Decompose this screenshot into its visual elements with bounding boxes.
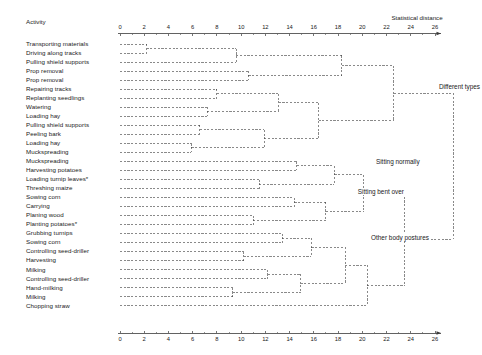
bottom-axis-tick-label-12: 12 <box>262 336 268 342</box>
activity-label-1: Driving along tracks <box>26 49 81 56</box>
activity-label-0: Transporting materials <box>26 40 88 47</box>
activity-label-24: Harvesting <box>26 256 56 263</box>
activity-label-10: Peeling bark <box>26 130 61 137</box>
bottom-axis-tick-label-24: 24 <box>408 336 414 342</box>
activity-label-3: Prop removal <box>26 67 63 74</box>
activity-label-13: Muckspreading <box>26 157 69 164</box>
annotation-sitting-normally: Sitting normally <box>374 158 421 165</box>
activity-label-29: Chopping straw <box>26 302 70 309</box>
bottom-axis-tick-label-10: 10 <box>238 336 244 342</box>
activity-label-16: Threshing maize <box>26 184 73 191</box>
top-axis-tick-label-4: 4 <box>167 24 170 30</box>
activity-label-11: Loading hay <box>26 139 60 146</box>
bottom-axis-tick-label-4: 4 <box>167 336 170 342</box>
activity-column-header: Activity <box>26 18 46 25</box>
bottom-axis-tick-label-6: 6 <box>191 336 194 342</box>
bottom-axis-tick-label-14: 14 <box>286 336 292 342</box>
top-axis-tick-label-18: 18 <box>335 24 341 30</box>
bottom-axis-tick-label-0: 0 <box>118 336 121 342</box>
annotation-sitting-bent-over: Sitting bent over <box>356 188 405 195</box>
bottom-axis-tick-label-18: 18 <box>335 336 341 342</box>
activity-label-28: Milking <box>26 293 46 300</box>
bottom-axis-tick-label-22: 22 <box>383 336 389 342</box>
top-axis-tick-label-0: 0 <box>118 24 121 30</box>
top-axis-arrowhead <box>437 32 442 35</box>
activity-label-4: Prop removal <box>26 76 63 83</box>
activity-label-8: Loading hay <box>26 112 60 119</box>
annotation-other-body-postures: Other body postures <box>370 234 431 241</box>
top-axis-tick-label-26: 26 <box>432 24 438 30</box>
activity-label-5: Repairing tracks <box>26 85 72 92</box>
activity-label-22: Sowing corn <box>26 238 61 245</box>
top-axis-tick-label-12: 12 <box>262 24 268 30</box>
activity-label-7: Watering <box>26 103 51 110</box>
activity-label-12: Muckspreading <box>26 148 69 155</box>
activity-label-19: Planing wood <box>26 211 64 218</box>
bottom-axis-tick-label-8: 8 <box>215 336 218 342</box>
top-axis-tick-label-10: 10 <box>238 24 244 30</box>
bottom-axis-tick-label-26: 26 <box>432 336 438 342</box>
bottom-axis-arrowhead <box>437 331 442 334</box>
activity-label-9: Pulling shield supports <box>26 121 89 128</box>
activity-label-2: Pulling shield supports <box>26 58 89 65</box>
activity-label-20: Planting potatoes* <box>26 220 77 227</box>
top-axis-tick-label-24: 24 <box>408 24 414 30</box>
activity-label-14: Harvesting potatoes <box>26 166 82 173</box>
annotation-different-types: Different types <box>437 83 481 90</box>
axis-title: Statistical distance <box>391 14 442 21</box>
activity-label-6: Replanting seedlings <box>26 94 84 101</box>
activity-label-17: Sowing corn <box>26 193 61 200</box>
activity-label-21: Grubbing turnips <box>26 229 73 236</box>
activity-label-27: Hand-milking <box>26 284 63 291</box>
top-axis-tick-label-8: 8 <box>215 24 218 30</box>
top-axis-tick-label-22: 22 <box>383 24 389 30</box>
bottom-axis-tick-label-16: 16 <box>311 336 317 342</box>
top-axis-tick-label-6: 6 <box>191 24 194 30</box>
top-axis-tick-label-16: 16 <box>311 24 317 30</box>
activity-label-23: Controlling seed-driller <box>26 247 89 254</box>
activity-label-15: Loading turnip leaves* <box>26 175 88 182</box>
activity-label-26: Controlling seed-driller <box>26 275 89 282</box>
activity-label-18: Carrying <box>26 202 50 209</box>
bottom-axis-tick-label-2: 2 <box>143 336 146 342</box>
top-axis-tick-label-20: 20 <box>359 24 365 30</box>
activity-label-25: Milking <box>26 266 46 273</box>
bottom-axis-tick-label-20: 20 <box>359 336 365 342</box>
top-axis-tick-label-14: 14 <box>286 24 292 30</box>
top-axis-tick-label-2: 2 <box>143 24 146 30</box>
